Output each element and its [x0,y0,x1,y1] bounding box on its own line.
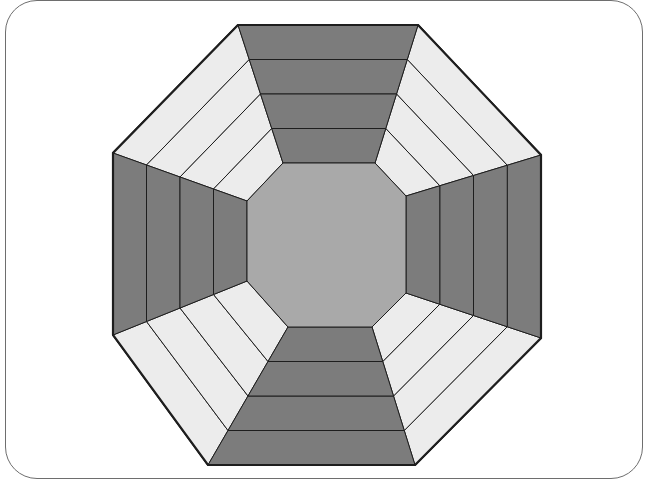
center-octagon [247,163,406,327]
dark-strip [180,177,214,308]
dark-strip [268,327,383,362]
pineapple-quilt-block [0,0,653,484]
dark-strip [113,153,147,335]
dark-strip [406,186,440,305]
dark-strip [261,94,397,129]
dark-strip [440,176,474,316]
dark-strip [208,431,415,466]
dark-strip [147,165,181,322]
dark-strip [248,362,394,397]
dark-strip [214,189,248,295]
dark-strip [238,25,418,60]
dark-strip [272,129,386,164]
dark-strip [507,155,541,338]
dark-strip [249,60,407,95]
dark-strip [474,165,508,327]
dark-strip [228,396,404,431]
